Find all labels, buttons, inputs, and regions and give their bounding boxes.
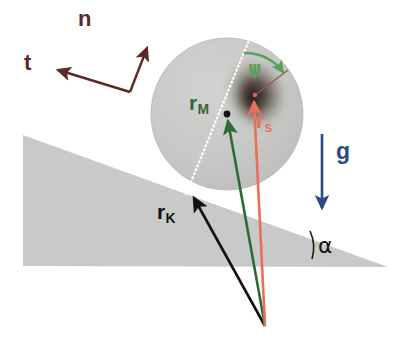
body-center-vector-symbol: r: [256, 109, 264, 132]
body-center-vector-label: rs: [256, 110, 272, 131]
mass-center-vector-subscript: M: [197, 101, 209, 117]
normal-vector-arrow: [130, 48, 147, 92]
geometric-center-dot: [224, 111, 231, 118]
contact-point-vector-subscript: K: [165, 210, 175, 226]
figure-canvas: n t g rM rs rK ψ α: [0, 0, 404, 342]
incline-angle-label: α: [318, 235, 333, 257]
normal-vector-label: n: [78, 8, 91, 30]
tangent-vector-label: t: [24, 52, 31, 74]
contact-point-vector-label: rK: [157, 201, 175, 222]
rotation-angle-label: ψ: [248, 60, 262, 77]
body-center-vector-subscript: s: [264, 119, 272, 135]
gravity-vector-label: g: [336, 140, 350, 163]
tangent-vector-arrow: [58, 70, 130, 92]
contact-point-vector-symbol: r: [157, 200, 165, 223]
diagram-svg: [0, 0, 404, 342]
mass-center-vector-label: rM: [189, 92, 209, 113]
mass-center-vector-symbol: r: [189, 91, 197, 114]
mass-center-dot: [253, 93, 257, 97]
